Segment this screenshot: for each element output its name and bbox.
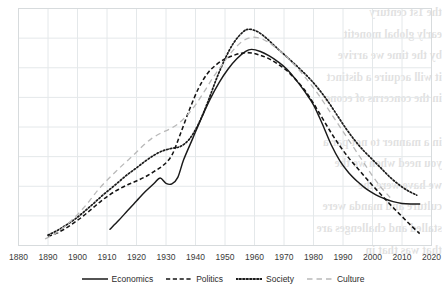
legend-item-economics[interactable]: Economics [82,274,154,284]
series-line-economics [110,49,420,229]
x-tick-label-1950: 1950 [216,252,235,262]
legend-label: Economics [112,274,154,284]
legend-item-culture[interactable]: Culture [307,274,364,284]
x-tick-label-1930: 1930 [157,252,176,262]
x-tick-label-1980: 1980 [304,252,323,262]
chart-legend: EconomicsPoliticsSocietyCulture [0,271,446,287]
x-tick-label-1940: 1940 [186,252,205,262]
series-line-society [48,29,417,235]
x-tick-label-2020: 2020 [422,252,441,262]
line-chart-plot [0,0,446,294]
legend-label: Society [266,274,294,284]
x-tick-label-1880: 1880 [9,252,28,262]
series-line-politics [48,53,420,237]
legend-swatch-culture [307,275,333,283]
x-tick-label-1970: 1970 [275,252,294,262]
x-tick-label-1920: 1920 [127,252,146,262]
x-tick-label-1910: 1910 [98,252,117,262]
x-tick-label-1960: 1960 [245,252,264,262]
legend-label: Culture [337,274,364,284]
x-tick-label-1890: 1890 [39,252,58,262]
x-tick-label-1990: 1990 [334,252,353,262]
x-axis-tick-labels: 1880189019001910192019301940195019601970… [0,252,446,266]
legend-item-politics[interactable]: Politics [166,274,223,284]
legend-swatch-economics [82,275,108,283]
legend-label: Politics [196,274,223,284]
x-tick-label-2000: 2000 [363,252,382,262]
series-lines [45,29,420,239]
legend-swatch-society [236,275,262,283]
chart-figure: the 1st century early global monetit by … [0,0,446,294]
legend-swatch-politics [166,275,192,283]
x-tick-label-2010: 2010 [393,252,412,262]
legend-item-society[interactable]: Society [236,274,294,284]
x-tick-label-1900: 1900 [68,252,87,262]
grid-lines [19,9,432,246]
